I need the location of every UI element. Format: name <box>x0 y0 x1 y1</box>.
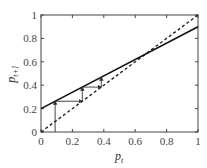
x-axis-label: pt <box>114 149 124 165</box>
x-tick-label: 0 <box>38 135 44 147</box>
x-tick-labels: 00.20.40.60.81 <box>38 135 201 147</box>
y-tick-label: 0 <box>32 126 38 138</box>
y-tick-label: 0.8 <box>23 32 37 44</box>
cobweb-chart: 00.20.40.60.81 00.20.40.60.81 pt pt+1 <box>0 0 207 168</box>
x-tick-label: 0.8 <box>160 135 174 147</box>
y-tick-label: 1 <box>32 9 38 21</box>
x-tick-label: 0.2 <box>66 135 80 147</box>
y-tick-label: 0.6 <box>23 56 37 68</box>
x-tick-label: 1 <box>195 135 201 147</box>
x-tick-label: 0.6 <box>128 135 142 147</box>
y-tick-label: 0.2 <box>23 103 37 115</box>
x-tick-label: 0.4 <box>97 135 111 147</box>
identity-line <box>41 15 198 132</box>
y-tick-labels: 00.20.40.60.81 <box>23 9 37 138</box>
y-tick-label: 0.4 <box>23 79 37 91</box>
map-line <box>41 27 198 109</box>
y-axis-label: pt+1 <box>4 65 20 84</box>
